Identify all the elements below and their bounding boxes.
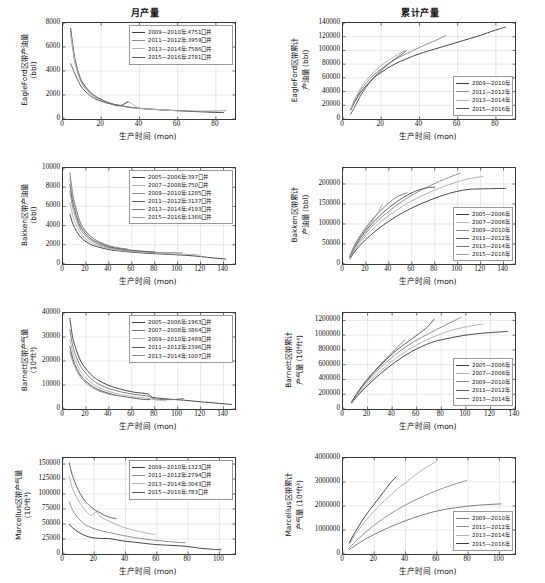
x-tick-label: 20 — [370, 555, 377, 563]
legend-label: 2013—2014年 — [472, 531, 510, 539]
legend-label: 2015—2016年 — [472, 540, 510, 548]
x-tick-label: 100 — [493, 555, 504, 563]
production-decline-figure: 月产量 累计产量 2009—2010年:4751口井2011—2012年:395… — [0, 0, 545, 583]
legend-row: 2009—2010年 — [456, 514, 509, 522]
series-line — [349, 462, 435, 544]
legend-swatch — [456, 518, 469, 519]
y-axis-label-line1: Marcellus区带累计 — [284, 473, 293, 536]
plot-area-marcellus-cumulative: 2009—2010年2011—2012年2013—2014年2015—2016年 — [342, 457, 516, 555]
legend-row: 2013—2014年 — [456, 531, 509, 539]
legend-row: 2011—2012年 — [456, 523, 509, 531]
legend-row: 2015—2016年 — [456, 540, 509, 548]
legend-swatch — [456, 535, 469, 536]
x-axis-label: 生产时间 (mon) — [342, 565, 514, 576]
legend-label: 2009—2010年 — [472, 514, 510, 522]
chart-panel-marcellus-cumulative: 2009—2010年2011—2012年2013—2014年2015—2016年… — [0, 0, 545, 583]
legend-swatch — [456, 526, 469, 527]
x-tick-label: 80 — [463, 555, 470, 563]
x-tick-label: 60 — [432, 555, 439, 563]
legend-label: 2011—2012年 — [472, 523, 510, 531]
legend-marcellus-cumulative: 2009—2010年2011—2012年2013—2014年2015—2016年 — [453, 511, 513, 551]
x-tick-label: 0 — [340, 555, 344, 563]
y-axis-label-line2: 产气量 (10⁴ft³) — [293, 444, 304, 566]
legend-swatch — [456, 543, 469, 544]
x-tick-label: 40 — [401, 555, 408, 563]
y-axis-label: Marcellus区带累计产气量 (10⁴ft³) — [282, 444, 304, 566]
